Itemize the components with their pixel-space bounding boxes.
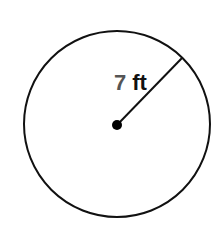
radius-value: 7 [114, 70, 126, 95]
circle-diagram: 7ft [0, 0, 222, 228]
radius-label: 7ft [114, 70, 148, 95]
center-point [112, 120, 122, 130]
radius-unit: ft [132, 70, 147, 95]
radius-line [117, 58, 182, 125]
